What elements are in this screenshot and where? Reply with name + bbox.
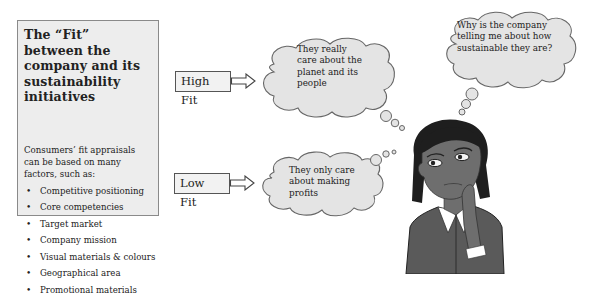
panel-intro: Consumers’ fit appraisals can be based o… (24, 144, 152, 180)
bullet-icon: • (26, 265, 31, 282)
bullet-icon: • (26, 249, 31, 266)
thought-text: They really care about the planet and it… (297, 44, 363, 89)
factor-item: •Visual materials & colours (24, 249, 152, 266)
factor-item: •Competitive positioning (24, 183, 152, 200)
bullet-icon: • (26, 232, 31, 249)
consumer-thought-cloud: Why is the company telling me about how … (442, 8, 582, 120)
factor-item: •Company mission (24, 232, 152, 249)
right-arrow-icon (231, 73, 256, 89)
panel-title: The “Fit” between the company and its su… (24, 27, 152, 105)
factor-list: •Competitive positioning •Core competenc… (24, 183, 152, 297)
factor-item: •Promotional materials (24, 282, 152, 297)
bullet-icon: • (26, 183, 31, 200)
bullet-icon: • (26, 282, 31, 297)
bullet-icon: • (26, 199, 31, 216)
thought-text: They only care about making profits (289, 165, 355, 199)
thinking-woman-illustration (400, 115, 510, 274)
factor-item: •Geographical area (24, 265, 152, 282)
low-fit-label: Low Fit (174, 173, 230, 194)
thought-text: Why is the company telling me about how … (457, 20, 567, 54)
low-fit-thought-cloud: They only care about making profits (260, 148, 400, 226)
factor-item: •Target market (24, 216, 152, 233)
high-fit-label: High Fit (175, 71, 231, 92)
fit-factors-panel: The “Fit” between the company and its su… (17, 20, 159, 216)
right-arrow-icon (230, 175, 255, 191)
high-fit-thought-cloud: They really care about the planet and it… (256, 34, 406, 134)
bullet-icon: • (26, 216, 31, 233)
factor-item: •Core competencies (24, 199, 152, 216)
